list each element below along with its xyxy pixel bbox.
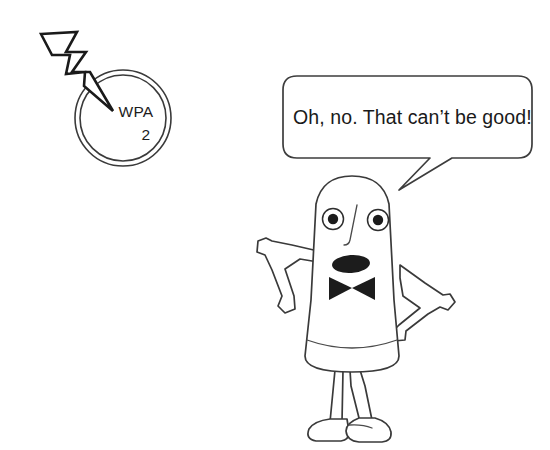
right-arm-akimbo: [392, 265, 455, 341]
right-shoe: [346, 418, 391, 442]
cartoon-scene: WPA 2 Oh, no. That can’t be good!: [0, 0, 550, 450]
speech-bubble: Oh, no. That can’t be good!: [283, 76, 532, 190]
badge-protocol-label: WPA: [119, 103, 154, 120]
head-and-torso: [305, 176, 399, 372]
right-pupil: [373, 215, 383, 225]
worried-blob-character: [257, 176, 455, 442]
cartoon-canvas: WPA 2 Oh, no. That can’t be good!: [0, 0, 550, 450]
left-arm: [257, 238, 318, 313]
badge-version-label: 2: [142, 126, 151, 143]
left-leg: [330, 370, 343, 422]
character-legs: [308, 370, 391, 442]
speech-bubble-text: Oh, no. That can’t be good!: [293, 106, 532, 128]
lightning-bolt: [41, 32, 113, 111]
right-leg: [350, 370, 372, 422]
left-pupil: [328, 214, 338, 224]
speech-bubble-shape: [283, 76, 532, 190]
left-shoe: [308, 419, 349, 441]
